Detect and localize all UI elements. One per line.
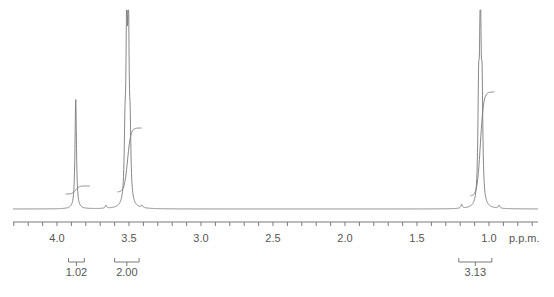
integral-bracket <box>69 258 85 266</box>
spectrum-trace <box>13 10 538 209</box>
nmr-spectrum-chart: 4.03.53.02.52.01.51.0p.p.m. 1.022.003.13 <box>0 0 554 297</box>
x-axis: 4.03.53.02.52.01.51.0p.p.m. <box>13 222 540 244</box>
x-tick-label: 4.0 <box>49 232 64 244</box>
x-tick-label: 1.5 <box>409 232 424 244</box>
integral-brackets: 1.022.003.13 <box>66 258 492 278</box>
x-axis-unit-label: p.p.m. <box>509 232 540 244</box>
integral-value-label: 3.13 <box>465 266 486 278</box>
integral-bracket <box>115 258 139 266</box>
x-tick-label: 3.0 <box>193 232 208 244</box>
integral-curve <box>118 128 142 192</box>
spectrum-line <box>13 10 538 209</box>
integral-value-label: 1.02 <box>66 266 87 278</box>
x-tick-label: 1.0 <box>481 232 496 244</box>
integral-value-label: 2.00 <box>116 266 137 278</box>
x-tick-label: 3.5 <box>121 232 136 244</box>
x-tick-label: 2.5 <box>265 232 280 244</box>
x-tick-label: 2.0 <box>337 232 352 244</box>
integral-bracket <box>459 258 492 266</box>
